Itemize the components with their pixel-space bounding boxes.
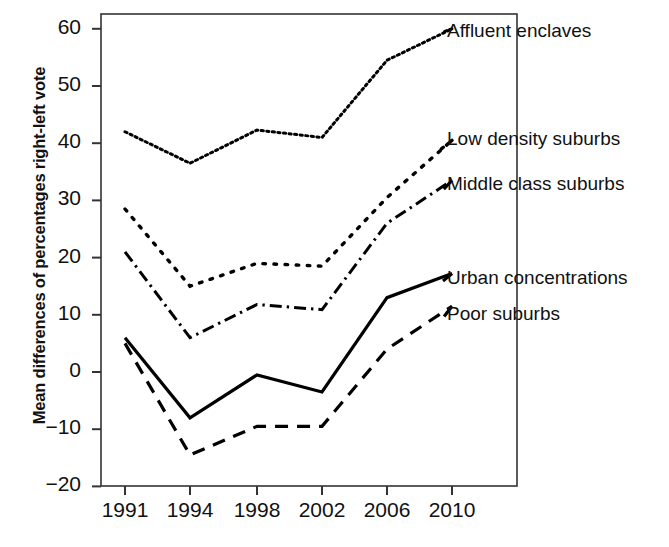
y-tick-label: 0	[21, 358, 81, 382]
series-label-low-density-suburbs: Low density suburbs	[447, 128, 620, 150]
y-tick-label: 50	[21, 72, 81, 96]
series-line-poor-suburbs	[125, 306, 452, 455]
y-tick-label: −10	[21, 415, 81, 439]
chart-figure: Mean differences of percentages right-le…	[0, 0, 669, 547]
y-tick-label: −20	[21, 472, 81, 496]
y-tick-label: 20	[21, 244, 81, 268]
y-tick-label: 30	[21, 186, 81, 210]
y-tick-label: 60	[21, 15, 81, 39]
plot-frame	[101, 14, 517, 486]
series-line-affluent-enclaves	[125, 29, 452, 163]
y-tick-label: 40	[21, 129, 81, 153]
series-line-urban-concentrations	[125, 274, 452, 418]
series-line-middle-class-suburbs	[125, 180, 452, 337]
axes	[101, 14, 517, 486]
series-label-urban-concentrations: Urban concentrations	[447, 267, 628, 289]
y-tick-label: 10	[21, 301, 81, 325]
series-label-poor-suburbs: Poor suburbs	[447, 303, 560, 325]
series-label-affluent-enclaves: Affluent enclaves	[447, 20, 591, 42]
series-label-middle-class-suburbs: Middle class suburbs	[447, 173, 624, 195]
y-tick-marks	[92, 29, 101, 487]
x-tick-label: 2010	[412, 498, 492, 522]
data-series-group	[125, 29, 452, 455]
x-tick-marks	[125, 486, 452, 495]
